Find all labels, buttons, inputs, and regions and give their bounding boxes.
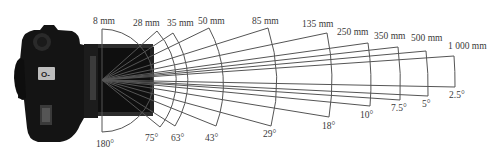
angle-label-2-5: 2.5° <box>449 91 465 101</box>
angle-label-29: 29° <box>263 130 276 140</box>
angle-label-5: 5° <box>422 100 431 110</box>
angle-label-63: 63° <box>171 134 184 144</box>
focal-label-28mm: 28 mm <box>133 19 160 29</box>
angle-label-75: 75° <box>145 134 158 144</box>
focal-label-35mm: 35 mm <box>167 19 194 29</box>
focal-label-135mm: 135 mm <box>302 20 333 30</box>
focal-label-500mm: 500 mm <box>411 34 442 44</box>
focal-label-8mm: 8 mm <box>93 17 115 27</box>
focal-label-1000mm: 1 000 mm <box>448 42 487 52</box>
angle-label-7-5: 7.5° <box>391 104 407 114</box>
focal-label-350mm: 350 mm <box>374 32 405 42</box>
focal-label-250mm: 250 mm <box>337 28 368 38</box>
angle-label-10: 10° <box>360 111 373 121</box>
angle-of-view-diagram: O- 8 mm 28 mm 35 mm 50 mm 85 mm 135 mm 2… <box>0 0 502 160</box>
angle-label-43: 43° <box>205 134 218 144</box>
focal-label-50mm: 50 mm <box>198 17 225 27</box>
angle-of-view-wedges <box>102 28 455 132</box>
svg-text:O-: O- <box>41 70 50 79</box>
focal-label-85mm: 85 mm <box>252 17 279 27</box>
angle-label-18: 18° <box>322 122 335 132</box>
diagram-canvas: O- <box>0 0 502 160</box>
angle-label-180: 180° <box>96 140 114 150</box>
